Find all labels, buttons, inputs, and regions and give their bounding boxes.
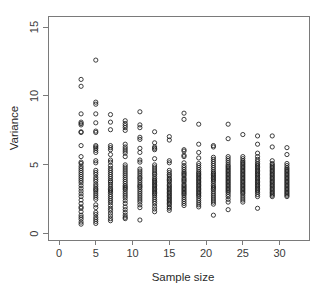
y-tick-label: 10	[28, 90, 40, 102]
data-point	[182, 111, 186, 115]
data-point	[138, 218, 142, 222]
plot-frame	[49, 17, 310, 241]
x-tick-label: 25	[237, 247, 249, 259]
data-point	[285, 152, 289, 156]
data-point	[255, 134, 259, 138]
data-point	[138, 150, 142, 154]
data-point	[197, 156, 201, 160]
data-point	[108, 128, 112, 132]
y-axis-label: Variance	[8, 106, 20, 151]
x-axis-label: Sample size	[152, 271, 215, 283]
data-point	[226, 122, 230, 126]
x-axis: 051015202530	[56, 240, 286, 259]
data-point	[153, 157, 157, 161]
data-point	[94, 121, 98, 125]
data-point	[79, 112, 83, 116]
data-point	[108, 120, 112, 124]
data-point	[108, 152, 112, 156]
data-point	[270, 145, 274, 149]
x-tick-label: 20	[200, 247, 212, 259]
data-point	[153, 210, 157, 214]
data-point	[79, 77, 83, 81]
x-tick-label: 0	[56, 247, 62, 259]
data-point	[138, 206, 142, 210]
data-point	[270, 134, 274, 138]
y-tick-label: 15	[28, 21, 40, 33]
data-point	[255, 142, 259, 146]
data-point	[197, 122, 201, 126]
scatter-plot-figure: 051015202530 051015 Sample size Variance	[0, 0, 321, 296]
data-point	[138, 110, 142, 114]
data-point	[94, 58, 98, 62]
data-point	[138, 126, 142, 130]
data-point	[197, 150, 201, 154]
data-point	[79, 143, 83, 147]
data-point	[182, 117, 186, 121]
data-point	[226, 137, 230, 141]
data-point	[123, 128, 127, 132]
data-point	[226, 200, 230, 204]
data-point	[285, 146, 289, 150]
data-point	[255, 206, 259, 210]
x-tick-label: 15	[163, 247, 175, 259]
data-point	[241, 132, 245, 136]
y-tick-label: 5	[28, 162, 40, 168]
data-point	[211, 213, 215, 217]
y-axis: 051015	[28, 21, 48, 237]
data-point	[138, 146, 142, 150]
x-tick-label: 30	[273, 247, 285, 259]
data-point	[153, 141, 157, 145]
data-point	[94, 112, 98, 116]
x-tick-label: 10	[126, 247, 138, 259]
data-point	[79, 84, 83, 88]
data-point	[226, 208, 230, 212]
data-point	[197, 142, 201, 146]
plot-canvas: 051015202530 051015 Sample size Variance	[0, 0, 321, 296]
data-point	[108, 112, 112, 116]
y-tick-label: 0	[28, 231, 40, 237]
x-tick-label: 5	[93, 247, 99, 259]
data-points-layer	[79, 58, 289, 226]
data-point	[79, 155, 83, 159]
data-point	[94, 206, 98, 210]
data-point	[153, 130, 157, 134]
